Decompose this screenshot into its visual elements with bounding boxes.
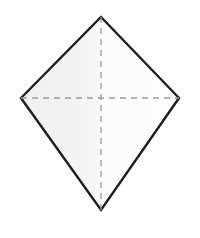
kite-diagram-svg xyxy=(0,0,200,238)
figure-canvas xyxy=(0,0,200,238)
